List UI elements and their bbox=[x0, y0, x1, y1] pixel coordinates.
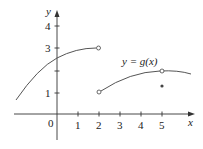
right-branch-curve bbox=[101, 71, 191, 91]
y-tick-label-3: 3 bbox=[45, 43, 51, 54]
y-axis-label: y bbox=[46, 6, 51, 17]
x-axis-label: x bbox=[188, 117, 193, 128]
open-circle-2-1 bbox=[97, 90, 101, 94]
y-axis-arrow-icon bbox=[55, 10, 60, 17]
x-tick-label-4: 4 bbox=[138, 120, 144, 131]
x-tick-label-5: 5 bbox=[159, 120, 165, 131]
graph-canvas bbox=[0, 0, 203, 149]
left-branch-curve bbox=[16, 48, 96, 100]
x-tick-label-2: 2 bbox=[96, 120, 102, 131]
filled-dot-5 bbox=[160, 84, 163, 87]
x-tick-label-3: 3 bbox=[117, 120, 123, 131]
y-tick-label-4: 4 bbox=[45, 21, 51, 32]
y-tick-label-1: 1 bbox=[45, 88, 51, 99]
open-circle-2-3 bbox=[97, 46, 101, 50]
function-label: y = g(x) bbox=[122, 56, 158, 67]
open-circle-5-2 bbox=[160, 69, 164, 73]
x-tick-label-1: 1 bbox=[75, 120, 81, 131]
origin-label: 0 bbox=[48, 118, 54, 129]
